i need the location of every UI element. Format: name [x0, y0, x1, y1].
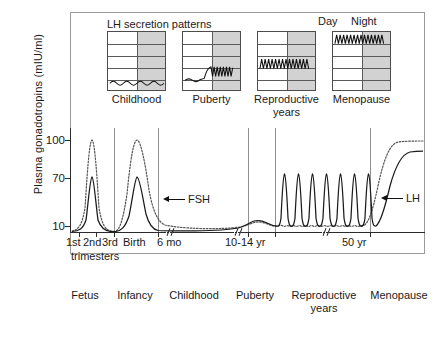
fsh-label: FSH — [188, 193, 210, 205]
x-label-birth: Birth — [123, 236, 146, 248]
stage-label-line2: years — [311, 302, 338, 314]
y-tick-label-100: 100 — [46, 134, 65, 146]
x-tick-50yr — [370, 232, 371, 237]
x-label-3rd: 3rd — [102, 236, 118, 248]
x-tick-puberty-end — [275, 232, 276, 237]
y-tick-label-10: 10 — [52, 220, 65, 232]
stage-label-reproductive: Reproductiveyears — [283, 289, 365, 314]
stage-label-fetus: Fetus — [62, 289, 108, 302]
x-label-trimesters: trimesters — [71, 250, 119, 262]
inset-caption-reproductive: Reproductive years — [247, 93, 326, 118]
x-label-1st: 1st — [66, 236, 81, 248]
reproductive-lh-wave — [258, 32, 315, 90]
inset-childhood — [107, 31, 166, 91]
puberty-lh-wave — [183, 32, 240, 90]
stage-label-infancy: Infancy — [108, 289, 162, 302]
inset-night-label: Night — [351, 15, 377, 27]
stage-label-menopause: Menopause — [363, 289, 435, 302]
x-label-2nd: 2nd — [83, 236, 101, 248]
inset-caption-childhood: Childhood — [97, 93, 176, 106]
lh-curve — [72, 151, 423, 232]
fsh-arrow-icon — [163, 195, 185, 203]
inset-caption-line2: years — [273, 106, 300, 118]
stage-label-puberty: Puberty — [227, 289, 283, 302]
x-label-50yr: 50 yr — [342, 236, 366, 248]
lh-label: LH — [406, 192, 420, 204]
lh-arrow-icon — [381, 194, 403, 202]
inset-day-label: Day — [318, 15, 338, 27]
menopause-lh-wave — [333, 32, 390, 90]
inset-reproductive — [257, 31, 316, 91]
y-tick-label-70: 70 — [52, 172, 65, 184]
curve-layer — [70, 128, 425, 232]
x-label-10-14yr: 10-14 yr — [225, 236, 265, 248]
childhood-lh-wave — [108, 32, 165, 90]
main-plot: 100 70 10 — [70, 128, 425, 232]
x-label-6mo: 6 mo — [157, 236, 181, 248]
inset-puberty — [182, 31, 241, 91]
annotation-fsh: FSH — [163, 192, 210, 205]
inset-section-title: LH secretion patterns — [107, 18, 212, 30]
inset-menopause — [332, 31, 391, 91]
inset-caption-line1: Reproductive — [254, 93, 319, 105]
annotation-lh: LH — [381, 191, 420, 204]
y-axis-title: Plasma gonadotropins (mIU/ml) — [32, 14, 44, 214]
stage-label-line1: Reproductive — [292, 289, 357, 301]
inset-caption-puberty: Puberty — [172, 93, 251, 106]
inset-caption-menopause: Menopause — [322, 93, 401, 106]
stage-label-childhood: Childhood — [160, 289, 228, 302]
